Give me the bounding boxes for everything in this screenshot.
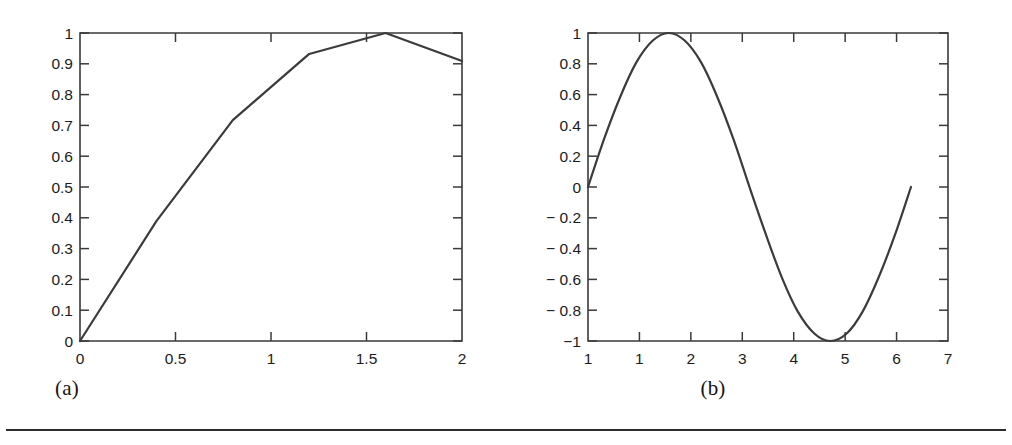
x-tick-label: 2: [458, 350, 467, 367]
chart-panel-b: 10.80.60.40.20− 0.2− 0.4− 0.6− 0.8−1 112…: [506, 0, 1012, 420]
x-tick-label: 1.5: [356, 350, 378, 367]
y-tick-label: 0: [572, 179, 581, 196]
y-tick-label: 0.2: [51, 271, 73, 288]
y-tick-label: 0.4: [559, 117, 581, 134]
chart-panel-a: 00.10.20.30.40.50.60.70.80.91 00.511.52 …: [0, 0, 506, 420]
y-tick-label: 0.9: [51, 55, 73, 72]
y-tick-label: 0.6: [559, 86, 581, 103]
plot-frame: [80, 33, 462, 341]
line-chart-b: 10.80.60.40.20− 0.2− 0.4− 0.6− 0.8−1 112…: [506, 0, 1012, 420]
y-axis-labels-b: 10.80.60.40.20− 0.2− 0.4− 0.6− 0.8−1: [546, 25, 581, 350]
y-tick-label: 1: [572, 25, 581, 42]
x-tick-label: 3: [738, 350, 747, 367]
data-series-line-b: [588, 33, 911, 341]
y-tick-label: −1: [563, 333, 581, 350]
y-tick-label: 0.6: [51, 148, 73, 165]
y-axis-ticks-a: [80, 33, 462, 341]
y-tick-label: 0: [64, 333, 73, 350]
y-tick-label: 1: [64, 25, 73, 42]
figure-root: 00.10.20.30.40.50.60.70.80.91 00.511.52 …: [0, 0, 1012, 445]
y-tick-label: − 0.8: [546, 302, 581, 319]
x-axis-ticks-a: [176, 33, 367, 341]
y-axis-ticks-b: [588, 33, 948, 341]
axes-frame-a: [80, 33, 462, 341]
y-tick-label: − 0.4: [546, 240, 581, 257]
y-tick-label: 0.5: [51, 179, 73, 196]
panel-caption-b: (b): [460, 376, 966, 401]
y-tick-label: 0.1: [51, 302, 73, 319]
panel-caption-a: (a): [0, 376, 320, 401]
y-axis-labels-a: 00.10.20.30.40.50.60.70.80.91: [51, 25, 73, 350]
line-chart-a: 00.10.20.30.40.50.60.70.80.91 00.511.52: [0, 0, 506, 420]
y-tick-label: − 0.6: [546, 271, 581, 288]
x-tick-label: 4: [789, 350, 798, 367]
x-tick-label: 1: [635, 350, 644, 367]
figure-horizontal-rule: [6, 429, 1006, 431]
x-tick-label: 7: [944, 350, 953, 367]
x-tick-label: 5: [841, 350, 850, 367]
x-axis-labels-a: 00.511.52: [76, 350, 467, 367]
y-tick-label: 0.7: [51, 117, 73, 134]
plot-frame: [588, 33, 948, 341]
x-tick-label: 6: [892, 350, 901, 367]
x-tick-label: 1: [267, 350, 276, 367]
x-tick-label: 1: [584, 350, 593, 367]
y-tick-label: − 0.2: [546, 209, 581, 226]
y-tick-label: 0.2: [559, 148, 581, 165]
x-tick-label: 0: [76, 350, 85, 367]
x-axis-ticks-b: [639, 33, 896, 341]
y-tick-label: 0.4: [51, 209, 73, 226]
x-axis-labels-b: 11234567: [584, 350, 953, 367]
x-tick-label: 2: [687, 350, 696, 367]
axes-frame-b: [588, 33, 948, 341]
y-tick-label: 0.8: [559, 55, 581, 72]
x-tick-label: 0.5: [165, 350, 187, 367]
y-tick-label: 0.8: [51, 86, 73, 103]
data-series-line-a: [80, 33, 462, 341]
y-tick-label: 0.3: [51, 240, 73, 257]
